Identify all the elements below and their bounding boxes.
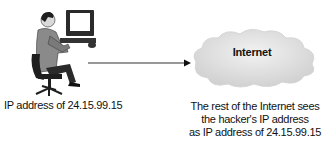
internet-caption-line: the hacker's IP address	[186, 113, 324, 126]
internet-caption-line: as IP address of 24.15.99.15	[186, 126, 324, 139]
person-at-computer-icon	[26, 6, 98, 98]
connection-arrow	[86, 56, 192, 70]
cloud-icon	[186, 26, 322, 90]
hacker-ip-caption: IP address of 24.15.99.15	[4, 99, 122, 111]
internet-caption: The rest of the Internet sees the hacker…	[186, 100, 324, 139]
internet-caption-line: The rest of the Internet sees	[186, 100, 324, 113]
internet-label: Internet	[186, 46, 318, 58]
